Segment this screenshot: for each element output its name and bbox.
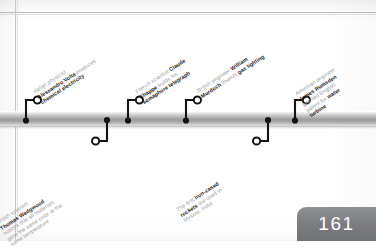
page-number-tab: 161	[297, 207, 376, 241]
page-number: 161	[318, 213, 355, 235]
timeline-bar	[0, 112, 376, 127]
event-label-wedgwood: British scientist Thomas Wedgwood notice…	[0, 185, 67, 248]
event-label-line: Alessandro Volta produces	[36, 57, 97, 100]
event-label-chappe: French scientist Claude Chappe builds hi…	[134, 57, 194, 105]
page-rule-horizontal	[0, 12, 376, 13]
event-label-line: Murdoch invents gas lighting	[199, 53, 265, 99]
event-label-line: British engineer William	[196, 48, 262, 94]
event-label-murdoch: British engineer William Murdoch invents…	[196, 48, 266, 100]
event-label-rockets: The first iron-cased rockets are used in…	[175, 180, 227, 223]
event-label-volta: Italian physicist Alessandro Volta produ…	[32, 52, 100, 106]
